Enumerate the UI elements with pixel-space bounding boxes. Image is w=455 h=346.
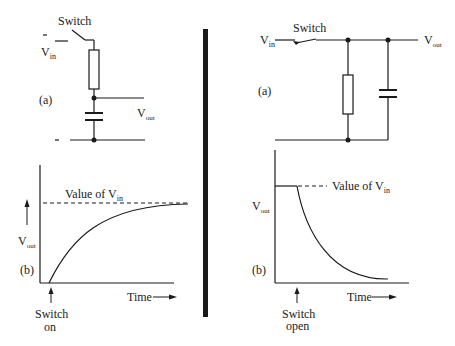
y-arrowhead-icon xyxy=(25,199,30,207)
resistor-icon xyxy=(343,75,353,114)
junction-dot xyxy=(92,96,97,101)
left-switch-label: Switch xyxy=(58,14,91,28)
right-vout-label: Vout xyxy=(424,33,442,49)
left-y-label: Vout xyxy=(18,234,36,250)
left-circuit xyxy=(43,30,145,140)
right-graph xyxy=(275,150,409,303)
right-reference-label: Value of Vin xyxy=(332,179,390,195)
left-graph xyxy=(27,165,188,303)
time-arrowhead-icon xyxy=(169,295,177,300)
switch-open-arrowhead-icon xyxy=(295,287,300,294)
left-circuit-panel-label: (a) xyxy=(39,93,52,107)
rc-circuit-diagram: Switch Vin Vout (a) Value of Vin Vout (b… xyxy=(0,0,455,346)
left-x-label: Time xyxy=(127,290,152,304)
left-vout-label: Vout xyxy=(137,106,155,122)
right-graph-panel-label: (b) xyxy=(252,263,266,277)
time-arrowhead-icon xyxy=(389,295,397,300)
right-event-label-line2: open xyxy=(286,319,309,333)
left-graph-panel-label: (b) xyxy=(20,263,34,277)
switch-arm-icon xyxy=(72,30,85,40)
junction-dot xyxy=(346,138,351,143)
resistor-icon xyxy=(89,50,99,89)
junction-dot xyxy=(92,138,97,143)
right-x-label: Time xyxy=(347,290,372,304)
right-circuit xyxy=(275,39,418,140)
junction-dot xyxy=(346,38,351,43)
left-reference-label: Value of Vin xyxy=(65,187,123,203)
discharge-curve xyxy=(297,186,388,279)
junction-dot xyxy=(386,38,391,43)
left-event-label-line2: on xyxy=(44,320,56,334)
charging-curve xyxy=(49,204,188,283)
right-circuit-panel-label: (a) xyxy=(258,84,271,98)
diagram-canvas: Switch Vin Vout (a) Value of Vin Vout (b… xyxy=(0,0,455,346)
divider-bar xyxy=(203,29,208,317)
left-event-label-line1: Switch xyxy=(35,307,68,321)
right-y-label: Vout xyxy=(252,199,270,215)
left-vin-label: Vin xyxy=(41,45,56,61)
right-switch-label: Switch xyxy=(293,21,326,35)
right-vin-label: Vin xyxy=(260,33,275,49)
switch-on-arrowhead-icon xyxy=(49,287,54,294)
